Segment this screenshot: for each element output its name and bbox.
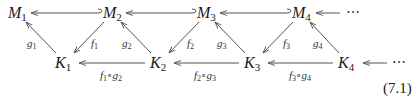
label-g1: g1 (27, 37, 37, 51)
label-f1-g2: f1∘g2 (100, 69, 122, 83)
node-M3: M3 (196, 4, 216, 23)
edge-M3-M2 (126, 9, 196, 13)
ellipsis-bottom: ⋯ (392, 55, 406, 70)
node-K1: K1 (54, 54, 71, 73)
commutative-diagram: M1 M2 M3 M4 ⋯ K1 K2 K3 K4 ⋯ g1 f1 g2 f2 … (0, 0, 418, 98)
node-K4: K4 (337, 54, 355, 73)
edge-M2-M1 (31, 9, 102, 13)
edge-M3-K2 (169, 22, 199, 53)
hook-icon (98, 9, 102, 13)
label-f3-g4: f3∘g4 (289, 69, 311, 83)
hook-icon (287, 9, 291, 13)
edge-M2-K1 (74, 22, 104, 53)
label-f2: f2 (187, 37, 194, 51)
label-f2-g3: f2∘g3 (194, 69, 216, 83)
equation-number: (7.1) (383, 80, 412, 97)
node-M4: M4 (291, 4, 311, 23)
label-g4: g4 (313, 37, 323, 51)
ellipsis-top: ⋯ (346, 5, 360, 20)
label-f1: f1 (91, 37, 98, 51)
label-g3: g3 (217, 37, 227, 51)
label-f3: f3 (283, 37, 290, 51)
hook-icon (192, 9, 196, 13)
node-M2: M2 (102, 4, 122, 23)
label-g2: g2 (122, 37, 132, 51)
node-K3: K3 (243, 54, 261, 73)
node-K2: K2 (149, 54, 166, 73)
edge-M4-M3 (220, 9, 291, 13)
node-M1: M1 (7, 4, 27, 23)
